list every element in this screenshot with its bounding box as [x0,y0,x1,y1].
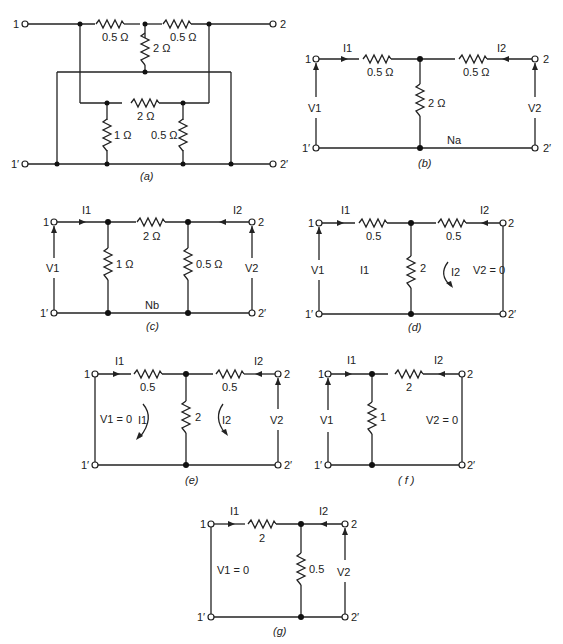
label-v2: V2 [270,414,283,426]
label-i1: I1 [347,354,356,366]
label-r-left-shunt: 1 Ω [114,129,131,141]
label-i2: I2 [497,42,506,54]
label-v2: V2 = 0 [473,264,505,276]
terminal-2: 2 [467,368,473,380]
label-r-series: 2 [406,381,412,393]
terminal-2: 2 [351,518,357,530]
label-r-right-shunt: 0.5 Ω [151,129,178,141]
label-r-series: 2 Ω [143,230,160,242]
caption-f: ( f ) [398,474,415,486]
label-network: Nb [145,299,159,311]
circuit-diagrams: 1 2 1′ 2′ 0.5 Ω 0.5 Ω 2 Ω 2 Ω 1 Ω 0.5 Ω … [0,0,563,644]
terminal-2: 2 [508,217,514,229]
label-i1: I1 [230,505,239,517]
terminal-2p: 2′ [258,307,266,319]
terminal-2: 2 [280,18,286,30]
label-v1: V1 [320,414,333,426]
label-r-left: 1 Ω [116,258,133,270]
label-r-mid: 2 Ω [153,42,170,54]
label-r-right: 0.5 Ω [196,258,223,270]
figure-g: 1 2 1′ 2′ I1 I2 2 0.5 V1 = 0 V2 (g) [197,505,359,637]
label-r-shunt: 1 [380,411,386,423]
terminal-2p: 2′ [280,158,288,170]
terminal-1p: 1′ [11,158,19,170]
figure-a: 1 2 1′ 2′ 0.5 Ω 0.5 Ω 2 Ω 2 Ω 1 Ω 0.5 Ω … [11,18,288,182]
terminal-2p: 2′ [351,611,359,623]
caption-a: (a) [140,170,154,182]
terminal-2p: 2′ [508,308,516,320]
label-loop-i1: I1 [138,414,147,426]
label-r-shunt: 0.5 [309,563,324,575]
label-i2: I2 [480,204,489,216]
terminal-1p: 1′ [302,142,310,154]
label-r3: 2 Ω [428,97,445,109]
caption-b: (b) [418,157,432,169]
terminal-1: 1 [43,216,49,228]
label-v1: V1 [311,264,324,276]
label-i1: I1 [341,204,350,216]
terminal-1p: 1′ [40,307,48,319]
label-r1: 0.5 Ω [367,66,394,78]
label-i1: I1 [82,204,91,216]
label-r-series: 2 [259,532,265,544]
label-loop-i2: I2 [451,266,460,278]
label-r1: 0.5 [366,230,381,242]
label-i2: I2 [319,505,328,517]
terminal-2p: 2′ [284,459,292,471]
terminal-1: 1 [308,217,314,229]
figure-c: 1 2 1′ 2′ I1 I2 2 Ω 1 Ω 0.5 Ω V1 V2 Nb (… [40,204,266,332]
label-v2: V2 = 0 [426,414,458,426]
caption-d: (d) [408,321,422,333]
terminal-2: 2 [258,216,264,228]
terminal-1: 1 [13,18,19,30]
label-v1: V1 [308,102,321,114]
label-network: Na [447,134,462,146]
label-v1: V1 = 0 [100,413,132,425]
caption-c: (c) [146,320,159,332]
terminal-2: 2 [543,53,549,65]
terminal-1: 1 [84,368,90,380]
terminal-2p: 2′ [467,459,475,471]
label-i1: I1 [115,355,124,367]
figure-f: 1 2 1′ 2′ I1 I2 2 1 V1 V2 = 0 ( f ) [314,354,475,486]
label-r2: 0.5 [446,230,461,242]
label-v2: V2 [245,262,258,274]
label-loop-i1: I1 [360,264,369,276]
label-i2: I2 [254,355,263,367]
terminal-2: 2 [284,368,290,380]
label-r1: 0.5 [140,381,155,393]
label-r3: 2 [420,262,426,274]
label-v1: V1 = 0 [217,564,249,576]
label-v2: V2 [337,566,350,578]
terminal-1p: 1′ [81,459,89,471]
caption-e: (e) [185,474,199,486]
label-r-top-left: 0.5 Ω [102,31,129,43]
terminal-1p: 1′ [314,459,322,471]
terminal-1: 1 [318,368,324,380]
label-i2: I2 [434,354,443,366]
label-v1: V1 [46,262,59,274]
terminal-1p: 1′ [197,611,205,623]
figure-e: 1 2 1′ 2′ I1 I2 0.5 0.5 2 V1 = 0 I1 I2 V… [81,355,292,486]
terminal-1: 1 [200,518,206,530]
label-i2: I2 [233,204,242,216]
label-r2: 0.5 Ω [463,66,490,78]
terminal-1p: 1′ [305,308,313,320]
label-r-inner: 2 Ω [137,110,154,122]
figure-b: 1 2 1′ 2′ I1 I2 0.5 Ω 0.5 Ω 2 Ω V1 V2 Na… [302,42,551,169]
label-v2: V2 [528,102,541,114]
caption-g: (g) [273,625,287,637]
label-loop-i2: I2 [222,414,231,426]
figure-d: 1 2 1′ 2′ I1 I2 0.5 0.5 2 V1 I1 I2 V2 = … [305,204,516,333]
terminal-2p: 2′ [543,142,551,154]
label-i1: I1 [343,42,352,54]
label-r2: 0.5 [222,381,237,393]
label-r3: 2 [195,411,201,423]
terminal-1: 1 [305,53,311,65]
label-r-top-right: 0.5 Ω [170,31,197,43]
